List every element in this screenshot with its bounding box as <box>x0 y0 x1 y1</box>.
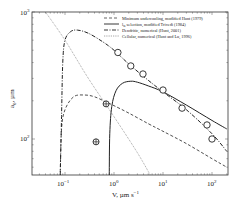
open-circle-marker <box>115 49 121 55</box>
data-markers <box>93 49 215 145</box>
open-circle-marker <box>204 122 210 128</box>
open-circle-marker <box>209 136 215 142</box>
x-tick-label: 100 <box>109 179 119 188</box>
series-dashdot-line <box>60 30 226 175</box>
crossed-circle-marker <box>103 101 109 107</box>
open-circle-marker <box>140 71 146 77</box>
x-tick-label: 102 <box>207 179 217 188</box>
chart: 10−1 100 101 102 102 103 V, µm s−1 a0, µ… <box>0 0 236 208</box>
y-tick-labels: 102 103 <box>20 8 30 143</box>
y-tick-label: 103 <box>20 8 30 17</box>
open-circle-marker <box>128 63 134 69</box>
crossed-circle-marker <box>93 139 99 145</box>
open-circle-marker <box>160 87 166 93</box>
y-axis-label: a0, µm <box>8 89 17 108</box>
x-tick-label: 101 <box>158 179 168 188</box>
series-dashed-line <box>60 95 226 172</box>
legend-label: Cellular, numerical (Hunt and Lu, 1996) <box>122 34 192 40</box>
x-tick-label: 10−1 <box>57 179 70 188</box>
x-axis-label: V, µm s−1 <box>112 190 139 199</box>
y-tick-label: 102 <box>20 134 30 143</box>
legend: Minimum undercooling, modified Hunt (197… <box>104 16 203 40</box>
open-circle-marker <box>179 105 185 111</box>
x-tick-labels: 10−1 100 101 102 <box>57 179 217 188</box>
